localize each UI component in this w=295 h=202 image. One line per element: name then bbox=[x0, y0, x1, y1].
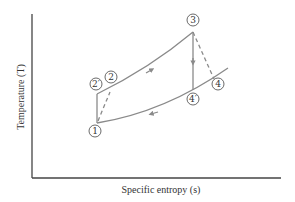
svg-text:4′: 4′ bbox=[189, 94, 197, 104]
direction-arrow-icon bbox=[151, 112, 158, 114]
state-label-3: 3 bbox=[187, 14, 199, 26]
actual-expansion-line bbox=[193, 32, 214, 79]
state-label-4-prime: 4′ bbox=[187, 93, 199, 105]
ts-diagram: 1 2′ 2 3 4 4′ Specific entropy (s) Tempe… bbox=[0, 0, 295, 202]
y-axis-label: Temperature (T) bbox=[15, 64, 27, 130]
svg-text:2′: 2′ bbox=[92, 79, 100, 89]
heat-addition-curve bbox=[97, 32, 193, 94]
diagram-canvas: 1 2′ 2 3 4 4′ Specific entropy (s) Tempe… bbox=[0, 0, 295, 202]
state-label-1: 1 bbox=[89, 125, 101, 137]
svg-text:3: 3 bbox=[190, 15, 196, 25]
axes bbox=[32, 14, 281, 178]
svg-text:4: 4 bbox=[215, 79, 221, 89]
svg-text:2: 2 bbox=[108, 72, 114, 82]
state-label-2-prime: 2′ bbox=[90, 78, 102, 90]
svg-text:1: 1 bbox=[92, 126, 98, 136]
actual-compression-line bbox=[98, 92, 110, 121]
state-label-2: 2 bbox=[105, 71, 117, 83]
state-label-4: 4 bbox=[212, 78, 224, 90]
direction-arrow-icon bbox=[146, 70, 152, 74]
x-axis-label: Specific entropy (s) bbox=[122, 184, 201, 196]
